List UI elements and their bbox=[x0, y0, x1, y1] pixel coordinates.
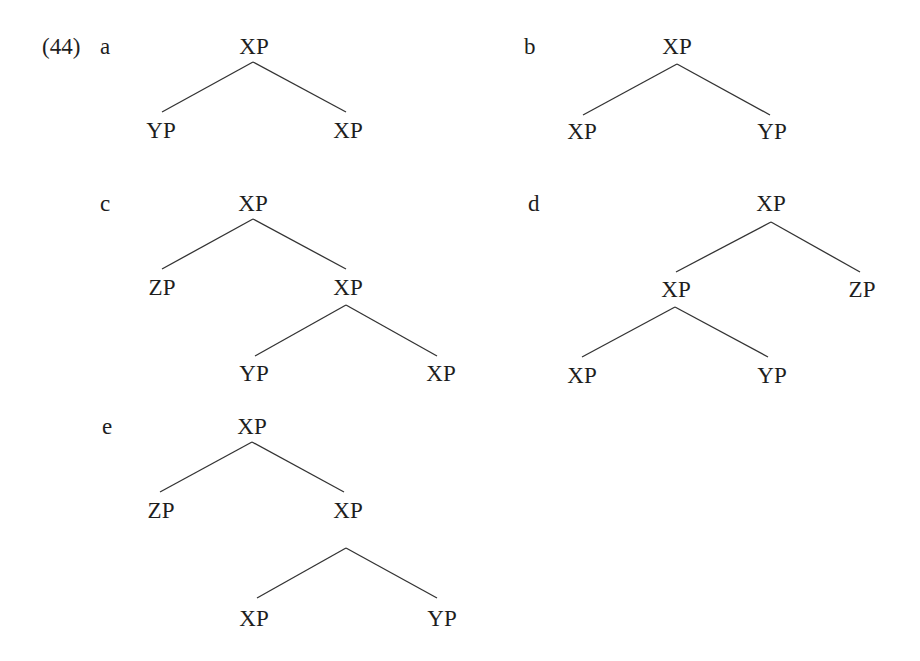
tree-e-branch-line bbox=[160, 442, 252, 492]
tree-d-left-right-node: YP bbox=[757, 364, 786, 387]
tree-a-branch-line bbox=[253, 62, 346, 112]
tree-c-right-left-node: YP bbox=[239, 362, 268, 385]
tree-c-right-node: XP bbox=[333, 276, 362, 299]
tree-d-branch-line bbox=[676, 222, 771, 272]
syntax-tree-figure: (44) a XP YP XP b XP XP YP c XP ZP XP YP… bbox=[0, 0, 920, 661]
tree-e-left-node: ZP bbox=[148, 499, 175, 522]
tree-c-branch-line bbox=[162, 219, 253, 269]
example-number: (44) bbox=[42, 35, 80, 58]
tree-a-branch-line bbox=[162, 62, 253, 112]
tree-e-right-node: XP bbox=[333, 499, 362, 522]
tree-a-left-node: YP bbox=[146, 119, 175, 142]
tree-e-branch-line bbox=[257, 548, 346, 598]
tree-b-left-node: XP bbox=[567, 120, 596, 143]
tree-e-root-node: XP bbox=[237, 415, 266, 438]
tree-b-root-node: XP bbox=[662, 35, 691, 58]
tree-b-branch-line bbox=[583, 64, 677, 115]
tree-c-root-node: XP bbox=[238, 192, 267, 215]
tree-d-root-node: XP bbox=[756, 192, 785, 215]
tree-d-right-node: ZP bbox=[849, 278, 876, 301]
tree-b-branch-line bbox=[677, 64, 770, 115]
tree-e-right-left-node: XP bbox=[239, 607, 268, 630]
tree-d-label: d bbox=[528, 192, 540, 215]
tree-c-branch-line bbox=[253, 219, 346, 269]
tree-a-right-node: XP bbox=[333, 119, 362, 142]
tree-c-branch-line bbox=[255, 305, 346, 356]
tree-e-right-right-node: YP bbox=[427, 607, 456, 630]
tree-edges bbox=[0, 0, 920, 661]
tree-c-branch-line bbox=[346, 305, 437, 356]
tree-c-label: c bbox=[100, 192, 110, 215]
tree-a-label: a bbox=[100, 35, 110, 58]
tree-c-left-node: ZP bbox=[149, 276, 176, 299]
tree-a-root-node: XP bbox=[239, 35, 268, 58]
tree-d-branch-line bbox=[675, 307, 768, 357]
tree-c-right-right-node: XP bbox=[426, 362, 455, 385]
tree-b-right-node: YP bbox=[757, 120, 786, 143]
tree-d-branch-line bbox=[582, 307, 675, 357]
tree-b-label: b bbox=[524, 35, 536, 58]
tree-d-left-left-node: XP bbox=[567, 364, 596, 387]
tree-e-branch-line bbox=[252, 442, 344, 492]
tree-e-branch-line bbox=[346, 548, 437, 598]
tree-d-left-node: XP bbox=[661, 278, 690, 301]
tree-d-branch-line bbox=[771, 222, 860, 272]
tree-e-label: e bbox=[102, 415, 112, 438]
